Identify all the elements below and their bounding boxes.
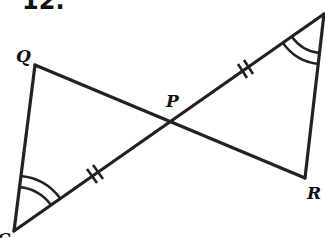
label-bottom-left: C <box>0 229 11 238</box>
geometry-figure: 12. Q P R C <box>0 0 325 238</box>
segment-Q-bottom-left <box>14 65 35 231</box>
double-arc-bottom-left-icon <box>20 176 61 205</box>
segment-top-right-R <box>305 14 324 178</box>
segment-diagonal <box>14 14 324 231</box>
problem-number: 12. <box>22 0 65 15</box>
label-R: R <box>306 183 321 203</box>
label-Q: Q <box>16 46 31 66</box>
double-arc-top-right-icon <box>283 37 320 64</box>
label-P: P <box>165 91 180 111</box>
